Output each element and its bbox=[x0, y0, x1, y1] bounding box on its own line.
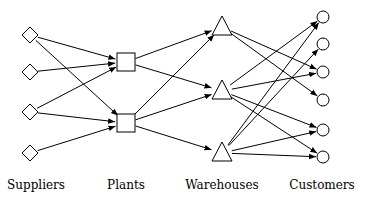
label-suppliers: Suppliers bbox=[7, 178, 65, 192]
edge-P2-W3 bbox=[136, 126, 212, 150]
edge-S4-P2 bbox=[38, 126, 116, 150]
edge-W1-C3 bbox=[231, 31, 316, 69]
edges-layer bbox=[36, 21, 319, 157]
edge-W3-C2 bbox=[229, 49, 318, 146]
supply-chain-diagram bbox=[0, 0, 371, 205]
edge-W3-C5 bbox=[232, 132, 316, 151]
edge-P1-W1 bbox=[135, 31, 211, 59]
node-suppliers-s3 bbox=[22, 104, 38, 120]
edge-W3-C6 bbox=[232, 153, 316, 156]
node-customers-c2 bbox=[317, 38, 329, 50]
label-plants: Plants bbox=[107, 178, 145, 192]
label-customers: Customers bbox=[289, 178, 355, 192]
node-customers-c5 bbox=[317, 124, 329, 136]
edge-P2-W2 bbox=[135, 94, 211, 119]
edge-S3-P2 bbox=[38, 113, 115, 122]
node-warehouses-w1 bbox=[212, 16, 232, 35]
node-customers-c3 bbox=[317, 66, 329, 78]
node-plants-p1 bbox=[117, 53, 135, 71]
edge-S1-P1 bbox=[38, 37, 116, 59]
edge-P1-W2 bbox=[136, 65, 212, 88]
edge-W2-C3 bbox=[232, 73, 316, 89]
edge-P2-W1 bbox=[133, 35, 214, 116]
node-suppliers-s2 bbox=[22, 64, 38, 80]
edge-S1-P2 bbox=[36, 40, 118, 115]
node-plants-p2 bbox=[117, 114, 135, 132]
edge-S2-P1 bbox=[38, 63, 115, 71]
edge-S3-P1 bbox=[37, 67, 116, 108]
node-suppliers-s1 bbox=[22, 27, 38, 43]
node-suppliers-s4 bbox=[22, 145, 38, 161]
node-warehouses-w2 bbox=[212, 80, 232, 99]
node-customers-c1 bbox=[317, 11, 329, 23]
label-warehouses: Warehouses bbox=[185, 178, 258, 192]
node-customers-c6 bbox=[317, 151, 329, 163]
node-customers-c4 bbox=[317, 94, 329, 106]
